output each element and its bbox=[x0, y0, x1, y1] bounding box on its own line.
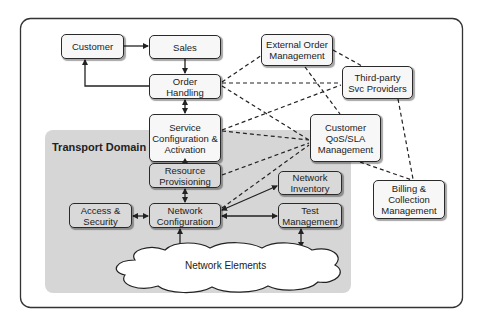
third-party-providers-node[interactable]: Third-party Svc Providers bbox=[342, 66, 413, 99]
customer-node[interactable]: Customer bbox=[61, 34, 124, 59]
order-handling-node[interactable]: Order Handling bbox=[149, 74, 221, 99]
billing-collection-node[interactable]: Billing & Collection Management bbox=[373, 180, 445, 219]
network-configuration-node[interactable]: Network Configuration bbox=[149, 203, 221, 228]
access-security-node[interactable]: Access & Security bbox=[69, 203, 132, 228]
test-management-node[interactable]: Test Management bbox=[278, 203, 342, 228]
service-configuration-node[interactable]: Service Configuration & Activation bbox=[149, 114, 221, 162]
network-elements-label: Network Elements bbox=[185, 260, 266, 271]
sales-node[interactable]: Sales bbox=[149, 35, 221, 59]
network-inventory-node[interactable]: Network Inventory bbox=[278, 171, 342, 195]
customer-qos-sla-node[interactable]: Customer QoS/SLA Management bbox=[310, 114, 381, 162]
transport-domain-title: Transport Domain bbox=[52, 141, 146, 153]
external-order-management-node[interactable]: External Order Management bbox=[261, 34, 333, 66]
resource-provisioning-node[interactable]: Resource Provisioning bbox=[149, 163, 221, 188]
